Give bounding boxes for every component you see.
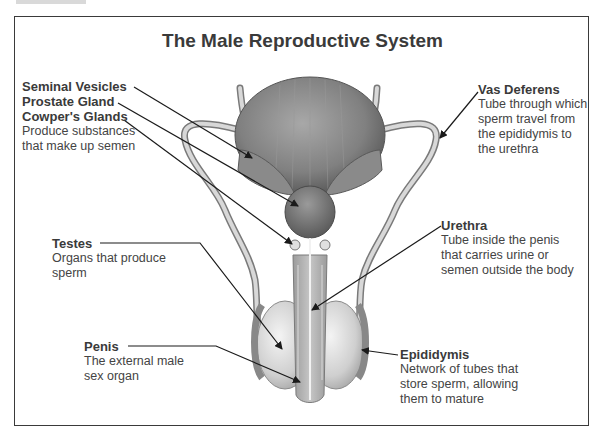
penis-desc-1: The external male: [84, 354, 184, 369]
vas-deferens-desc-2: sperm travel from: [478, 112, 587, 127]
label-vas-deferens: Vas Deferens Tube through which sperm tr…: [478, 82, 587, 157]
urethra-desc-3: semen outside the body: [441, 263, 574, 278]
cowpers-glands-name: Cowper's Glands: [22, 109, 135, 124]
prostate-gland-name: Prostate Gland: [22, 94, 135, 109]
penis-desc-2: sex organ: [84, 369, 184, 384]
seminal-vesicles-name: Seminal Vesicles: [22, 79, 135, 94]
penis-name: Penis: [84, 339, 184, 354]
label-seminal-vesicles: Seminal Vesicles Prostate Gland Cowper's…: [22, 79, 135, 154]
cowpers-glands-desc-2: that make up semen: [22, 139, 135, 154]
testes-desc-2: sperm: [52, 266, 166, 281]
vas-deferens-desc-4: the urethra: [478, 142, 587, 157]
vas-deferens-name: Vas Deferens: [478, 82, 587, 97]
testes-name: Testes: [52, 236, 166, 251]
cowpers-glands-desc-1: Produce substances: [22, 124, 135, 139]
label-epididymis: Epididymis Network of tubes that store s…: [400, 347, 518, 407]
epididymis-desc-3: them to mature: [400, 392, 518, 407]
urethra-desc-1: Tube inside the penis: [441, 233, 574, 248]
vas-deferens-desc-1: Tube through which: [478, 97, 587, 112]
urethra-desc-2: that carries urine or: [441, 248, 574, 263]
testes-desc-1: Organs that produce: [52, 251, 166, 266]
label-urethra: Urethra Tube inside the penis that carri…: [441, 218, 574, 278]
label-penis: Penis The external male sex organ: [84, 339, 184, 384]
urethra-name: Urethra: [441, 218, 574, 233]
epididymis-desc-2: store sperm, allowing: [400, 377, 518, 392]
vas-deferens-desc-3: the epididymis to: [478, 127, 587, 142]
epididymis-name: Epididymis: [400, 347, 518, 362]
label-testes: Testes Organs that produce sperm: [52, 236, 166, 281]
epididymis-desc-1: Network of tubes that: [400, 362, 518, 377]
